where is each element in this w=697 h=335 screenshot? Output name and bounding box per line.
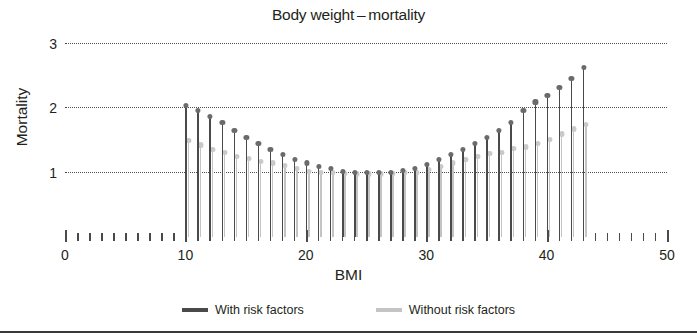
stem-without-risk-factors [272, 163, 274, 237]
x-axis-minor-tick [655, 233, 657, 241]
x-axis-title: BMI [0, 266, 697, 284]
stem-with-risk-factors [486, 137, 488, 237]
stem-without-risk-factors [501, 152, 503, 237]
stem-without-risk-factors [525, 147, 527, 237]
stem-with-risk-factors [330, 168, 332, 237]
stem-with-risk-factors [571, 78, 573, 237]
stem-with-risk-factors [366, 173, 368, 237]
stem-dot-icon [448, 152, 453, 157]
plot-area [65, 44, 667, 237]
stem-with-risk-factors [559, 87, 561, 237]
x-axis-tick-label: 30 [406, 247, 446, 263]
x-axis-minor-tick [595, 233, 597, 241]
stem-without-risk-factors [224, 153, 226, 237]
stem-with-risk-factors [258, 144, 260, 237]
stem-dot-icon [208, 114, 213, 119]
stem-dot-icon [497, 128, 502, 133]
stem-with-risk-factors [354, 173, 356, 237]
stem-with-risk-factors [402, 171, 404, 237]
stem-dot-icon [461, 147, 466, 152]
stem-with-risk-factors [294, 160, 296, 237]
x-axis-minor-tick [631, 233, 633, 241]
stem-dot-icon [521, 108, 526, 113]
stem-without-risk-factors [296, 168, 298, 237]
stem-without-risk-factors [452, 163, 454, 237]
stem-without-risk-factors [344, 173, 346, 237]
stem-with-risk-factors [414, 168, 416, 237]
legend-swatch-icon [182, 308, 208, 311]
stem-dot-icon [557, 85, 562, 90]
x-axis-minor-tick [161, 233, 163, 241]
stem-with-risk-factors [535, 102, 537, 237]
stem-without-risk-factors [489, 153, 491, 237]
stem-with-risk-factors [378, 173, 380, 237]
legend-swatch-icon [376, 308, 402, 311]
legend-item: With risk factors [182, 303, 304, 317]
stem-without-risk-factors [416, 173, 418, 237]
stem-dot-icon [244, 135, 249, 140]
legend-label: With risk factors [215, 303, 304, 317]
stem-with-risk-factors [510, 123, 512, 238]
stem-without-risk-factors [440, 166, 442, 237]
x-axis-major-tick [65, 230, 67, 242]
stem-dot-icon [256, 141, 261, 146]
x-axis-minor-tick [101, 233, 103, 241]
stem-without-risk-factors [200, 145, 202, 237]
stem-with-risk-factors [474, 144, 476, 237]
gridline [65, 107, 667, 108]
stem-without-risk-factors [188, 141, 190, 238]
stem-without-risk-factors [428, 169, 430, 237]
stem-without-risk-factors [537, 144, 539, 237]
stem-with-risk-factors [462, 150, 464, 237]
x-axis-minor-tick [173, 233, 175, 241]
stem-with-risk-factors [234, 130, 236, 237]
stem-without-risk-factors [320, 173, 322, 237]
stem-without-risk-factors [561, 134, 563, 237]
gridline [65, 43, 667, 44]
stem-without-risk-factors [513, 149, 515, 237]
x-axis-minor-tick [113, 233, 115, 241]
x-axis-tick-label: 20 [286, 247, 326, 263]
stem-dot-icon [268, 147, 273, 152]
stem-with-risk-factors [583, 68, 585, 237]
stem-dot-icon [196, 108, 201, 113]
stem-dot-icon [436, 157, 441, 162]
chart-legend: With risk factorsWithout risk factors [0, 303, 697, 317]
stem-dot-icon [533, 99, 538, 104]
stem-without-risk-factors [248, 159, 250, 237]
chart-title: Body weight – mortality [0, 6, 697, 24]
stem-with-risk-factors [209, 117, 211, 237]
stem-with-risk-factors [318, 166, 320, 237]
legend-label: Without risk factors [409, 303, 515, 317]
y-axis-tick-label: 2 [35, 100, 57, 116]
stem-dot-icon [581, 65, 586, 70]
stem-with-risk-factors [222, 123, 224, 238]
stem-dot-icon [232, 128, 237, 133]
stem-with-risk-factors [185, 105, 187, 237]
stem-with-risk-factors [246, 137, 248, 237]
y-axis-title: Mortality [13, 62, 31, 172]
stem-with-risk-factors [390, 173, 392, 237]
y-axis-tick-labels: 123 [33, 44, 57, 237]
stem-dot-icon [569, 76, 574, 81]
chart-page: Body weight – mortality Mortality 123 01… [0, 0, 697, 335]
stem-without-risk-factors [392, 173, 394, 237]
stem-with-risk-factors [450, 155, 452, 237]
stem-without-risk-factors [585, 124, 587, 237]
stem-without-risk-factors [260, 161, 262, 237]
x-axis-minor-tick [607, 233, 609, 241]
stem-with-risk-factors [197, 110, 199, 237]
bottom-rule [0, 331, 697, 333]
x-axis-tick-label: 0 [45, 247, 85, 263]
x-axis-minor-tick [77, 233, 79, 241]
stem-dot-icon [545, 93, 550, 98]
stem-with-risk-factors [306, 163, 308, 237]
y-axis-tick-label: 3 [35, 36, 57, 52]
stem-with-risk-factors [282, 155, 284, 237]
stem-without-risk-factors [236, 157, 238, 237]
stem-without-risk-factors [332, 173, 334, 237]
stem-dot-icon [473, 141, 478, 146]
stem-dot-icon [280, 152, 285, 157]
stem-with-risk-factors [270, 150, 272, 237]
stem-without-risk-factors [368, 174, 370, 237]
